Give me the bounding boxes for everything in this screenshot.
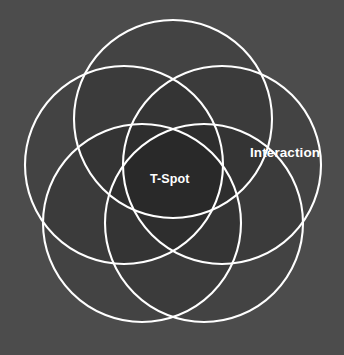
- label-interaction: Interaction: [250, 145, 320, 160]
- venn-diagram-canvas: .vcircle-fill { mix-blend-mode: multiply…: [0, 0, 344, 355]
- label-t-spot: T-Spot: [150, 172, 189, 186]
